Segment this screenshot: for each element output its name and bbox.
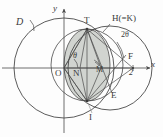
label-angle-two-theta: 2θ [121, 31, 129, 39]
label-point-m: M [96, 66, 103, 74]
label-point-n: N [73, 69, 80, 78]
label-point-e: E [111, 91, 117, 100]
label-circle-d: D [16, 17, 23, 27]
label-origin-o: O [55, 69, 62, 78]
leader-line-h [103, 24, 110, 32]
label-x-tick-2: 2 [129, 69, 133, 77]
label-point-f: F [128, 52, 133, 61]
axis-label-y: y [53, 4, 57, 13]
label-angle-theta: θ [73, 52, 77, 60]
axis-label-x: x [151, 60, 155, 69]
label-point-t: T [84, 16, 90, 25]
geometry-diagram-svg [0, 0, 163, 137]
label-circle-h: H(=K) [112, 14, 136, 23]
label-point-i: I [89, 113, 92, 122]
figure-container: D y T H(=K) 2θ θ O N M F 2 x E I [0, 0, 163, 137]
